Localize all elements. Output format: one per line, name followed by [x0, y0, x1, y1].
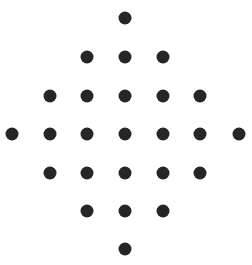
lattice-dot: [81, 90, 94, 103]
lattice-dot: [119, 12, 132, 25]
lattice-dot: [81, 167, 94, 180]
lattice-dot: [81, 51, 94, 64]
lattice-dot: [119, 90, 132, 103]
lattice-dot: [157, 90, 170, 103]
lattice-dot: [44, 128, 57, 141]
lattice-dot: [119, 51, 132, 64]
lattice-dot: [157, 51, 170, 64]
lattice-dot: [119, 205, 132, 218]
lattice-dot: [194, 90, 207, 103]
lattice-dot: [157, 128, 170, 141]
lattice-dot: [233, 128, 246, 141]
dot-lattice-figure: [0, 0, 252, 265]
lattice-dot: [119, 128, 132, 141]
lattice-dot: [81, 205, 94, 218]
lattice-dot: [119, 167, 132, 180]
lattice-dot: [44, 90, 57, 103]
lattice-dot: [157, 205, 170, 218]
lattice-dot: [157, 167, 170, 180]
lattice-dot: [6, 128, 19, 141]
lattice-dot: [194, 128, 207, 141]
lattice-dot: [81, 128, 94, 141]
lattice-dot: [194, 167, 207, 180]
lattice-dot: [119, 243, 132, 256]
lattice-dot: [44, 167, 57, 180]
